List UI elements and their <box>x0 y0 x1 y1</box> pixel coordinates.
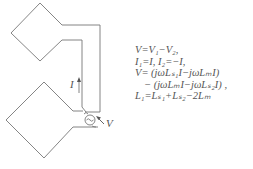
current-arrow-icon <box>77 77 81 82</box>
ac-source-icon <box>84 113 96 128</box>
equation-voltage: V=V₁−V₂, <box>135 44 227 56</box>
voltage-arrow-icon <box>96 116 101 120</box>
current-label: I <box>70 78 74 90</box>
equations-block: V=V₁−V₂, I₁=I, I₂=−I, V= (jωLₛ₁I−jωLₘI) … <box>135 44 227 102</box>
equation-v-expansion-2: − (jωLₘI−jωLₛ₂I) , <box>135 79 227 91</box>
voltage-label: V <box>106 117 113 129</box>
top-loop-inner-lead <box>62 40 86 112</box>
equation-currents: I₁=I, I₂=−I, <box>135 56 227 68</box>
loop-antenna-diagram <box>0 0 130 169</box>
equation-v-expansion-1: V= (jωLₛ₁I−jωLₘI) <box>135 67 227 79</box>
equation-inductance: L₁=Lₛ₁+Lₛ₂−2Lₘ <box>135 90 227 102</box>
bottom-loop <box>6 82 98 158</box>
top-loop <box>11 3 100 112</box>
